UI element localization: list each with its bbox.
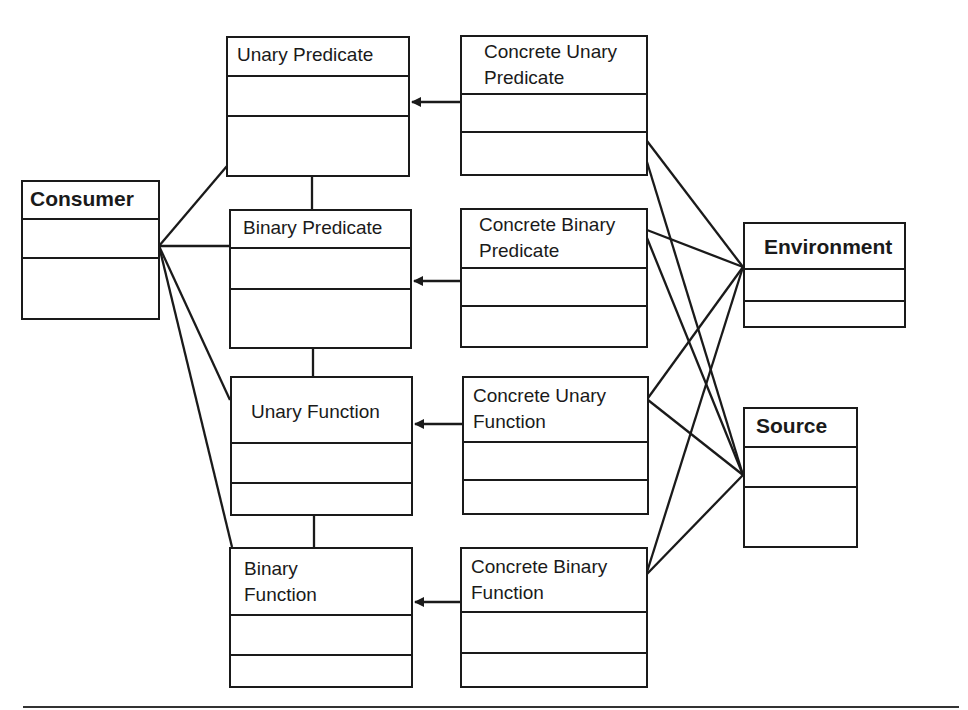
operations-compartment (464, 481, 647, 513)
class-name: Concrete Unary Function (464, 378, 647, 443)
class-unary-function[interactable]: Unary Function (230, 376, 413, 516)
link-consumer-binary-function (159, 246, 232, 547)
class-name: Binary Predicate (231, 211, 410, 249)
link-cup-source (647, 162, 743, 475)
link-cbp-source (647, 238, 743, 475)
link-consumer-unary-function (159, 246, 230, 400)
class-concrete-unary-predicate[interactable]: Concrete Unary Predicate (460, 35, 648, 176)
class-consumer[interactable]: Consumer (21, 180, 160, 320)
class-name: Consumer (23, 182, 158, 220)
class-name: Concrete Binary Predicate (462, 210, 646, 269)
attributes-compartment (745, 270, 904, 302)
operations-compartment (228, 117, 408, 175)
class-concrete-binary-predicate[interactable]: Concrete Binary Predicate (460, 208, 648, 348)
class-name: Concrete Binary Function (462, 549, 646, 613)
class-name: Environment (745, 224, 904, 270)
class-name: Source (745, 409, 856, 448)
operations-compartment (462, 133, 646, 174)
class-source[interactable]: Source (743, 407, 858, 548)
link-consumer-unary-predicate (159, 166, 227, 246)
class-name: Concrete Unary Predicate (462, 37, 646, 95)
class-concrete-binary-function[interactable]: Concrete Binary Function (460, 547, 648, 688)
operations-compartment (462, 307, 646, 346)
attributes-compartment (228, 77, 408, 117)
class-concrete-unary-function[interactable]: Concrete Unary Function (462, 376, 649, 515)
bottom-divider (23, 706, 959, 708)
attributes-compartment (23, 220, 158, 259)
operations-compartment (745, 488, 856, 546)
class-name: Binary Function (231, 549, 411, 616)
class-environment[interactable]: Environment (743, 222, 906, 328)
operations-compartment (231, 656, 411, 686)
attributes-compartment (231, 616, 411, 656)
operations-compartment (232, 484, 411, 514)
attributes-compartment (464, 443, 647, 481)
attributes-compartment (232, 444, 411, 484)
operations-compartment (23, 259, 158, 318)
class-unary-predicate[interactable]: Unary Predicate (226, 36, 410, 177)
class-name: Unary Predicate (228, 38, 408, 77)
link-cuf-environment (648, 267, 743, 398)
operations-compartment (462, 654, 646, 686)
attributes-compartment (745, 448, 856, 488)
class-binary-predicate[interactable]: Binary Predicate (229, 209, 412, 349)
attributes-compartment (462, 269, 646, 307)
operations-compartment (745, 302, 904, 326)
attributes-compartment (462, 95, 646, 133)
link-cbf-environment (647, 267, 743, 572)
attributes-compartment (231, 249, 410, 290)
class-name: Unary Function (232, 378, 411, 444)
attributes-compartment (462, 613, 646, 654)
operations-compartment (231, 290, 410, 347)
class-binary-function[interactable]: Binary Function (229, 547, 413, 688)
